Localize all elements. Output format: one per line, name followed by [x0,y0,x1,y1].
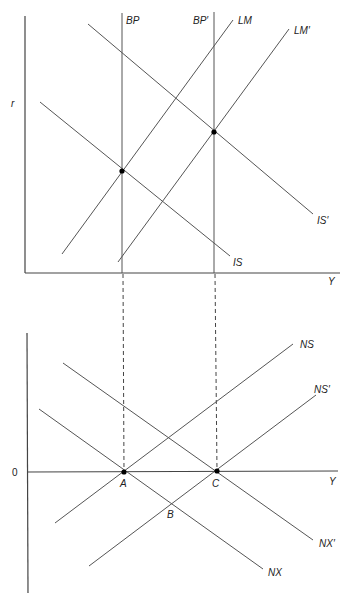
ns-label: NS [300,339,314,350]
point-b-label: B [167,509,174,520]
bottom-x-axis-label: Y [329,476,337,487]
point-a-label: A [119,478,127,489]
bp-label: BP [126,15,140,26]
nx-curve [39,409,263,569]
lm-prime-curve [118,29,289,262]
new-equilibrium-point [211,129,216,134]
is-label: IS [233,257,243,268]
bottom-panel: 0 Y NS NS′ NX NX′ A C B [12,333,338,593]
lm-curve [62,20,233,254]
is-prime-label: IS′ [317,215,329,226]
is-curve [40,102,230,256]
nx-prime-label: NX′ [319,538,336,549]
top-panel: r Y BP BP′ LM LM′ IS IS′ [11,12,340,287]
bottom-zero-label: 0 [12,467,18,478]
nx-prime-curve [63,363,313,540]
guide-line-a [123,274,124,472]
lm-prime-label: LM′ [294,25,311,36]
ns-prime-label: NS′ [314,384,331,395]
initial-equilibrium-point [119,168,124,173]
point-c [214,468,219,473]
point-a [121,469,126,474]
top-y-axis-label: r [11,98,15,109]
bottom-x-axis [27,471,338,472]
bp-prime-label: BP′ [193,15,209,26]
guide-line-c [215,274,217,471]
top-x-axis-label: Y [328,276,336,287]
ns-curve [55,344,293,523]
nx-label: NX [268,567,282,578]
lm-label: LM [238,15,253,26]
point-c-label: C [212,478,220,489]
bottom-y-axis [27,333,28,593]
islm-bp-ns-nx-diagram: r Y BP BP′ LM LM′ IS IS′ 0 Y NS [0,0,355,605]
